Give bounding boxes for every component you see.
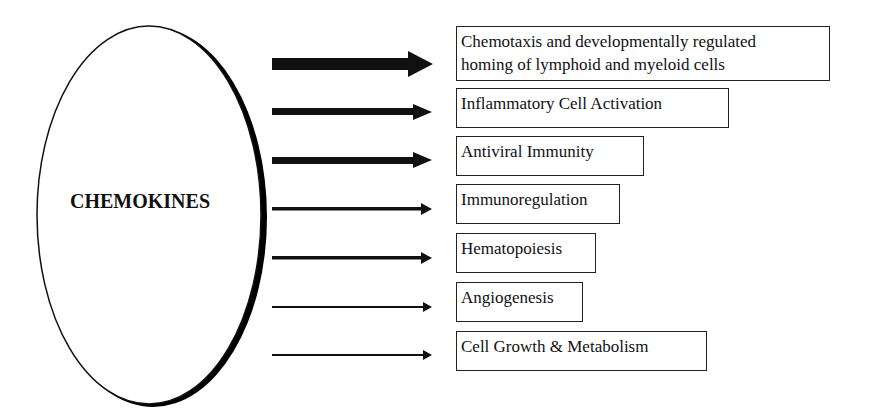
function-label-line: homing of lymphoid and myeloid cells <box>461 53 823 76</box>
arrow-5 <box>272 252 432 264</box>
arrow-2 <box>272 104 432 120</box>
arrow-4 <box>272 203 432 215</box>
arrow-3 <box>272 152 432 168</box>
function-label: Hematopoiesis <box>461 237 589 260</box>
function-box-chemotaxis: Chemotaxis and developmentally regulated… <box>456 26 830 81</box>
function-label: Angiogenesis <box>461 286 576 309</box>
function-label: Immunoregulation <box>461 188 613 211</box>
function-box-antiviral: Antiviral Immunity <box>456 136 644 176</box>
function-box-inflammatory: Inflammatory Cell Activation <box>456 88 729 128</box>
function-box-angiogenesis: Angiogenesis <box>456 282 583 322</box>
function-box-cell-growth: Cell Growth & Metabolism <box>456 331 707 371</box>
arrow-1 <box>272 51 433 77</box>
function-label-line: Chemotaxis and developmentally regulated <box>461 30 823 53</box>
function-box-immunoregulation: Immunoregulation <box>456 184 620 224</box>
arrow-6 <box>272 302 432 312</box>
arrow-7 <box>272 350 432 360</box>
function-label: Antiviral Immunity <box>461 140 637 163</box>
function-label: Cell Growth & Metabolism <box>461 335 700 358</box>
function-label: Inflammatory Cell Activation <box>461 92 722 115</box>
function-box-hematopoiesis: Hematopoiesis <box>456 233 596 273</box>
